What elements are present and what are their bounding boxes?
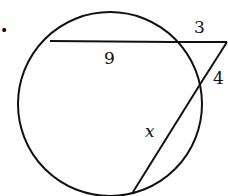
label-chord-9: 9 [104, 48, 115, 68]
geometry-diagram: 9 3 4 x [0, 0, 228, 196]
chord-segment [50, 41, 173, 42]
circle [18, 12, 202, 196]
label-external-3: 3 [194, 17, 205, 37]
label-external-4: 4 [213, 68, 224, 88]
label-unknown-x: x [145, 121, 155, 141]
